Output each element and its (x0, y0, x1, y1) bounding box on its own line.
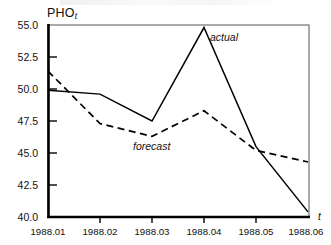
plot-frame (48, 25, 309, 217)
series-line-actual (48, 28, 308, 212)
x-tick-label: 1988.03 (134, 226, 169, 237)
x-tick-label: 1988.05 (238, 226, 273, 237)
x-tick-label: 1988.01 (30, 226, 65, 237)
x-tick-label: 1988.02 (82, 226, 117, 237)
series-annotation-actual: actual (210, 31, 238, 43)
line-chart: PHOt 55.0 52.5 50.0 47.5 45.0 42.5 40.0 (0, 0, 331, 245)
series-line-forecast (48, 71, 308, 162)
x-tick-label: 1988.04 (186, 226, 221, 237)
x-tick-label: 1988.06 (288, 226, 323, 237)
series-annotation-forecast: forecast (133, 140, 170, 152)
plot-canvas (0, 0, 331, 245)
x-axis-variable-label: t (318, 211, 321, 222)
